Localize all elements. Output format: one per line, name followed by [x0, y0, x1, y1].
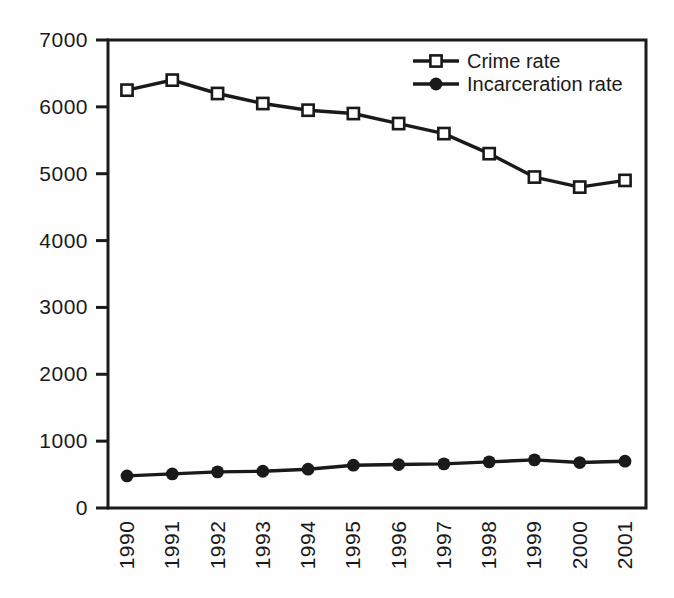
legend: Crime rateIncarceration rate: [0, 0, 674, 598]
crime-incarceration-line-chart: 01000200030004000500060007000 1990199119…: [0, 0, 674, 598]
legend-label-0: Crime rate: [467, 49, 560, 73]
legend-label-1: Incarceration rate: [467, 72, 623, 96]
